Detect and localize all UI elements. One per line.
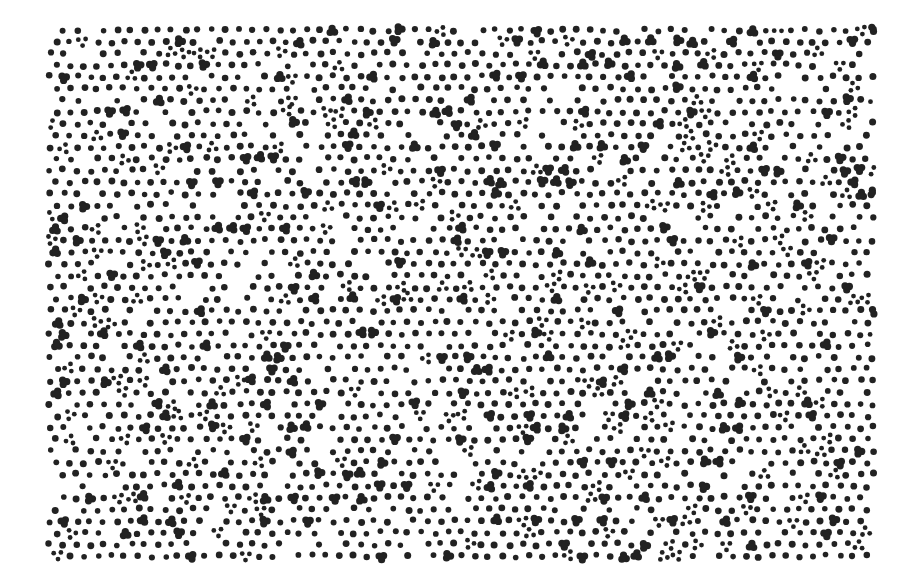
dot-pattern [0, 0, 903, 581]
